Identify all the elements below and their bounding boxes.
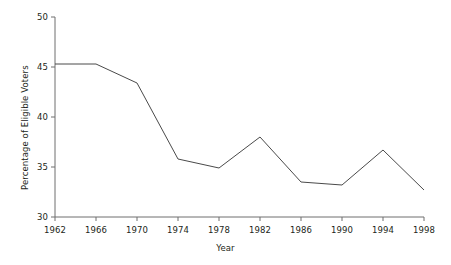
- x-tick-label: 1966: [85, 226, 107, 235]
- y-axis-title: Percentage of Eligible Voters: [20, 65, 30, 190]
- x-tick-label: 1994: [372, 226, 394, 235]
- x-tick-label: 1998: [413, 226, 435, 235]
- y-tick-label: 30: [24, 213, 48, 222]
- axes-group: [55, 17, 424, 217]
- x-tick-label: 1970: [126, 226, 148, 235]
- x-tick-label: 1990: [331, 226, 353, 235]
- x-tick-label: 1978: [208, 226, 230, 235]
- x-tick-marks: [55, 217, 424, 221]
- x-axis-title: Year: [0, 243, 451, 253]
- x-tick-label: 1986: [290, 226, 312, 235]
- line-chart: 3035404550 19621966197019741978198219861…: [0, 0, 451, 265]
- x-tick-label: 1974: [167, 226, 189, 235]
- x-tick-label: 1962: [44, 226, 66, 235]
- y-tick-marks: [51, 17, 55, 217]
- data-series-line: [55, 64, 424, 190]
- y-tick-label: 50: [24, 13, 48, 22]
- x-tick-label: 1982: [249, 226, 271, 235]
